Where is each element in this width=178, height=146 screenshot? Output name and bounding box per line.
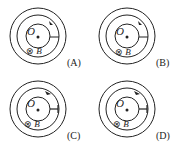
option-label: (D): [156, 131, 170, 141]
field-label: ⊗ B: [113, 120, 129, 129]
arrow-icon: [49, 21, 53, 25]
center-label: O: [27, 26, 35, 37]
field-label: ⊗ B: [26, 47, 42, 56]
diagram-b: O ⊗ B (B): [89, 0, 178, 73]
center-label: O: [116, 26, 124, 37]
field-label: ⊗ B: [24, 120, 40, 129]
option-label: (B): [156, 58, 169, 68]
option-label: (C): [67, 131, 80, 141]
option-label: (A): [67, 58, 81, 68]
arrow-icon: [138, 21, 142, 25]
diagram-d: O ⊗ B (D): [89, 73, 178, 146]
field-label: ⊗ B: [115, 48, 131, 57]
center-label: O: [116, 98, 124, 109]
center-label: O: [27, 98, 35, 109]
diagram-c: O ⊗ B (C): [0, 73, 89, 146]
diagram-a: O ⊗ B (A): [0, 0, 89, 73]
